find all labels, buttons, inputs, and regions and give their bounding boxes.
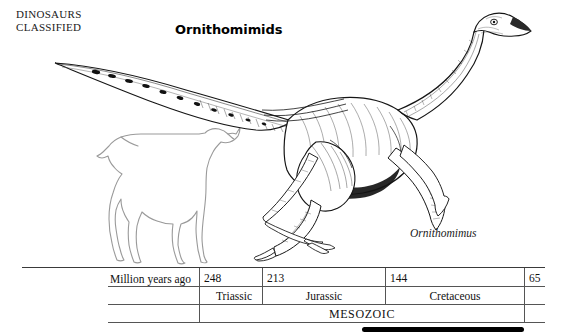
timeline-period-cretaceous: Cretaceous: [386, 290, 524, 302]
timeline-date-213: 213: [267, 272, 284, 284]
timeline-date-248: 248: [204, 272, 221, 284]
range-indicator-bar: [362, 327, 524, 332]
timeline-date-144: 144: [390, 272, 407, 284]
timeline-rule-top: [22, 267, 545, 268]
timeline-period-triassic: Triassic: [206, 290, 262, 302]
timeline-divider-65: [524, 268, 525, 322]
dinosaur-classification-plate: DINOSAURS CLASSIFIED Ornithomimids Ornit…: [0, 0, 563, 336]
million-years-ago-label: Million years ago: [110, 273, 191, 285]
timeline-rule-dates: [108, 286, 545, 287]
geologic-timescale: Million years ago 248 213 144 65 Triassi…: [0, 0, 563, 336]
timeline-period-jurassic: Jurassic: [263, 290, 385, 302]
timeline-rule-bottom: [108, 322, 545, 323]
timeline-date-65: 65: [529, 272, 541, 284]
timeline-rule-periods: [108, 304, 545, 305]
timeline-era-mesozoic: MESOZOIC: [200, 307, 524, 322]
